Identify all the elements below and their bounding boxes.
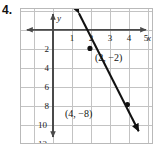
- y-tick-label: 10: [31, 121, 47, 130]
- problem-number: 4.: [2, 4, 12, 16]
- figure-root: 4.: [0, 0, 154, 147]
- y-axis-label: y: [57, 14, 61, 23]
- y-tick-label: 2: [33, 45, 49, 54]
- y-tick-label: 6: [33, 83, 49, 92]
- point-annotation: (2, −2): [95, 53, 122, 63]
- x-tick-label: 3: [105, 34, 115, 43]
- point-annotation: (4, −8): [65, 109, 92, 119]
- x-tick-label: 1: [67, 34, 77, 43]
- coordinate-plane: 1 2 3 4 5 2 4 6 8 10 12 y x (2, −2) (4, …: [20, 8, 153, 144]
- x-axis-label: x: [147, 34, 151, 43]
- data-point: [125, 102, 130, 107]
- x-tick-label: 2: [86, 34, 96, 43]
- y-tick-label: 12: [31, 140, 47, 144]
- x-tick-label: 4: [124, 34, 134, 43]
- data-point: [87, 46, 92, 51]
- y-tick-label: 8: [33, 102, 49, 111]
- y-tick-label: 4: [33, 64, 49, 73]
